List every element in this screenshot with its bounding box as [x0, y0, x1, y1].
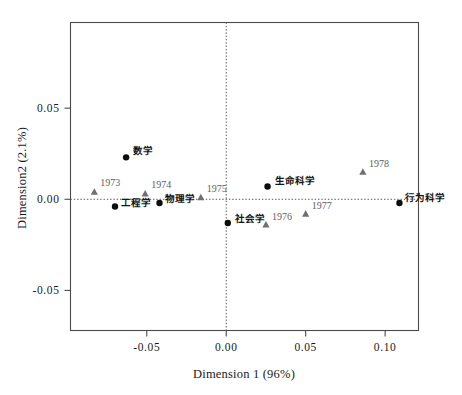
year-label: 1974	[151, 179, 171, 190]
plot-background	[0, 0, 462, 395]
y-tick-label: 0.00	[37, 193, 60, 205]
year-label: 1973	[100, 177, 120, 188]
data-point-circle	[112, 203, 118, 209]
correspondence-analysis-plot: -0.050.000.050.10 0.050.00-0.05 工程学数学物理学…	[0, 0, 462, 395]
x-tick-label: 0.00	[215, 341, 238, 353]
data-point-circle	[396, 200, 402, 206]
x-tick-label: 0.05	[294, 341, 317, 353]
y-tick-label: -0.05	[33, 284, 60, 296]
year-label: 1976	[272, 211, 292, 222]
scatter-plot-svg: -0.050.000.050.10 0.050.00-0.05 工程学数学物理学…	[0, 0, 462, 395]
y-tick-label: 0.05	[37, 102, 60, 114]
year-label: 1978	[369, 158, 389, 169]
year-label: 1975	[207, 183, 227, 194]
x-tick-label: -0.05	[133, 341, 160, 353]
data-point-circle	[123, 154, 129, 160]
year-label: 1977	[312, 200, 332, 211]
x-axis-title: Dimension 1 (96%)	[193, 367, 295, 381]
discipline-label: 行为科学	[404, 192, 445, 203]
data-point-circle	[264, 183, 270, 189]
x-tick-label: 0.10	[374, 341, 397, 353]
discipline-label: 工程学	[121, 197, 151, 208]
discipline-label: 物理学	[165, 193, 195, 204]
discipline-label: 社会学	[234, 213, 265, 224]
discipline-label: 数学	[132, 145, 153, 156]
data-point-circle	[156, 200, 162, 206]
y-axis-title: Dimension2 (2.1%)	[15, 127, 29, 229]
discipline-label: 生命科学	[275, 175, 315, 186]
data-point-circle	[225, 220, 231, 226]
